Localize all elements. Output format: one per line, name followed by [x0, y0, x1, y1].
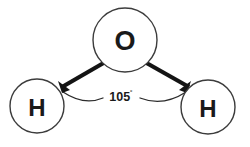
atom-label-hydrogen-left: H: [28, 94, 45, 121]
bond-oxygen-hydrogen-left: [62, 61, 107, 87]
degree-symbol-icon: ˚: [130, 89, 133, 98]
bond-oxygen-hydrogen-right: [143, 61, 189, 87]
water-molecule-diagram: O H H 105˚: [0, 0, 250, 147]
molecule-diagram-canvas: O H H 105˚: [0, 0, 250, 147]
angle-arc-left-segment: [63, 92, 103, 101]
atom-label-oxygen: O: [114, 26, 135, 56]
bond-angle-value: 105: [109, 90, 130, 104]
bond-angle-label: 105˚: [109, 89, 133, 105]
atom-label-hydrogen-right: H: [199, 95, 216, 122]
angle-arc-right-segment: [140, 92, 186, 101]
